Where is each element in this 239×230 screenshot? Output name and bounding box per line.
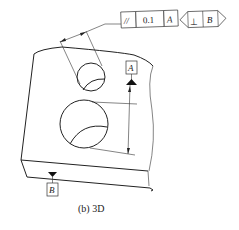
datum-a-label: A xyxy=(127,63,134,73)
gdt-drawing: A B // 0.1 A ⊥ B xyxy=(0,0,239,230)
datum-b-symbol: B xyxy=(47,172,58,196)
frame1-datum: A xyxy=(166,14,173,24)
perpendicularity-control-frame: ⊥ B xyxy=(180,10,227,28)
tolerance-value: 0.1 xyxy=(143,15,155,25)
large-bore xyxy=(60,100,108,148)
small-bore xyxy=(77,63,105,91)
figure-caption: (b) 3D xyxy=(78,203,104,214)
frame2-datum: B xyxy=(207,15,213,25)
perpendicularity-symbol: ⊥ xyxy=(190,16,198,26)
parallelism-extension-lines xyxy=(60,24,121,84)
datum-b-label: B xyxy=(49,185,55,195)
parallelism-control-frame: // 0.1 A xyxy=(121,10,179,28)
datum-a-symbol: A xyxy=(90,61,137,155)
